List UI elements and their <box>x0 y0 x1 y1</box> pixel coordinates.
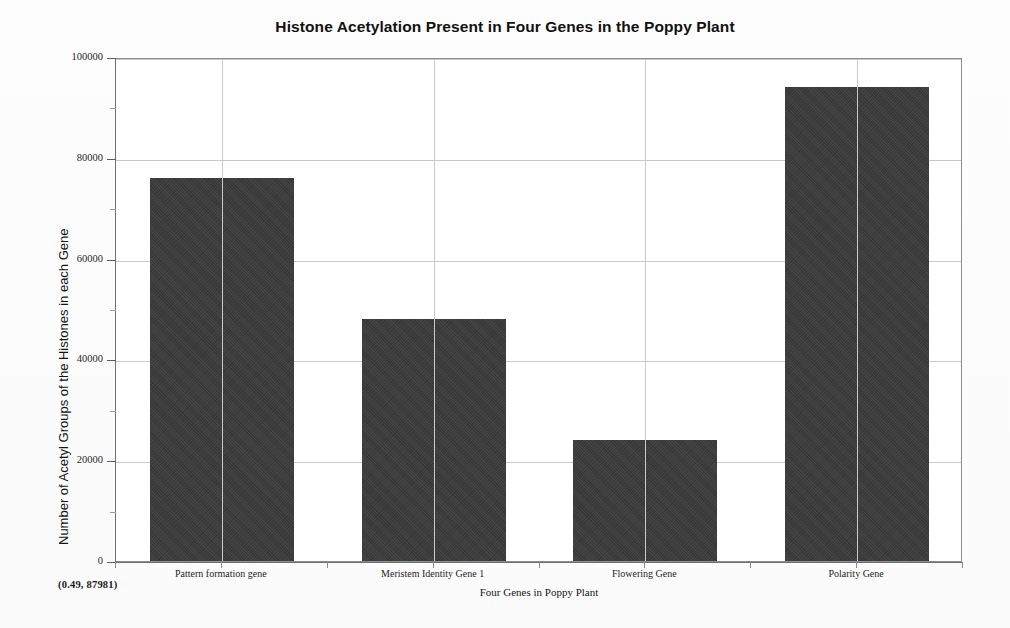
y-axis-minor-tick <box>110 108 116 109</box>
y-axis-tick-label-text: 60000 <box>77 253 103 264</box>
y-axis-minor-tick <box>110 411 116 412</box>
y-axis-minor-tick <box>110 209 116 210</box>
y-gridline <box>116 59 961 60</box>
y-axis-tick <box>107 260 116 261</box>
x-axis-category-label: Flowering Gene <box>539 568 751 579</box>
plot-area <box>115 58 962 562</box>
x-axis-title: Four Genes in Poppy Plant <box>115 586 963 598</box>
x-axis-boundary-tick <box>962 562 963 568</box>
y-axis-tick-label-text: 100000 <box>72 51 104 62</box>
y-axis-tick-label-text: 40000 <box>77 353 103 364</box>
coordinate-annotation: (0.49, 87981) <box>58 579 117 590</box>
y-axis-tick-label-text: 80000 <box>77 152 103 163</box>
x-gridline <box>857 59 858 561</box>
x-gridline <box>434 59 435 561</box>
x-axis-category-label: Meristem Identity Gene 1 <box>327 568 539 579</box>
y-axis-tick-label-text: 0 <box>98 555 103 566</box>
y-axis-title: Number of Acetyl Groups of the Histones … <box>56 45 71 545</box>
y-axis-tick <box>107 461 116 462</box>
y-axis-tick <box>107 360 116 361</box>
x-axis-category-label: Polarity Gene <box>750 568 962 579</box>
chart-title: Histone Acetylation Present in Four Gene… <box>0 18 1010 36</box>
x-axis-category-label: Pattern formation gene <box>115 568 327 579</box>
x-gridline <box>222 59 223 561</box>
y-axis-tick <box>107 58 116 59</box>
y-axis-tick <box>107 159 116 160</box>
y-axis-minor-tick <box>110 512 116 513</box>
y-axis-minor-tick <box>110 310 116 311</box>
y-axis-tick-label-text: 20000 <box>77 454 103 465</box>
x-gridline <box>645 59 646 561</box>
